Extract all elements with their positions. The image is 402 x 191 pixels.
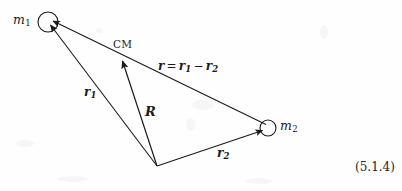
vector-label-r2: r2 — [217, 147, 229, 161]
figure-container: m1 m2 CM r1 r2 R r=r1−r2 (5.1.4) — [0, 0, 402, 191]
vector-label-r1-symbol: r — [84, 85, 90, 99]
expr-lhs: r — [158, 59, 164, 73]
mass-label-m2-symbol: m — [280, 118, 292, 133]
body-circle-m2 — [260, 120, 276, 136]
mass-label-m2: m2 — [280, 120, 298, 134]
vector-label-r-expression: r=r1−r2 — [158, 60, 218, 74]
vector-line-r2 — [157, 131, 263, 167]
vector-label-r1-subscript: 1 — [91, 90, 97, 100]
equation-number: (5.1.4) — [355, 161, 395, 173]
expr-term2-subscript: 2 — [212, 64, 218, 74]
center-of-mass-label: CM — [113, 39, 132, 50]
vector-label-r2-symbol: r — [217, 146, 223, 160]
vector-label-R: R — [145, 105, 156, 118]
expr-equals: = — [167, 59, 177, 73]
vector-diagram-svg — [0, 0, 402, 191]
mass-label-m1: m1 — [13, 14, 31, 28]
mass-label-m2-subscript: 2 — [292, 124, 297, 134]
expr-minus: − — [193, 59, 203, 73]
vector-label-R-symbol: R — [145, 104, 156, 119]
expr-term1-subscript: 1 — [185, 64, 191, 74]
mass-label-m1-symbol: m — [13, 12, 25, 27]
vector-label-r2-subscript: 2 — [224, 151, 230, 161]
vector-label-r1: r1 — [84, 86, 96, 100]
mass-label-m1-subscript: 1 — [25, 18, 30, 28]
